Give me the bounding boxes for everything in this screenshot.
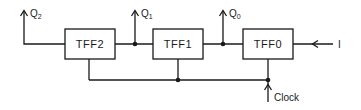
q1-label: Q1 [141,8,153,20]
q2-output: Q2 [21,8,66,44]
clock-label: Clock [274,92,300,103]
q2-label: Q2 [30,8,42,20]
tff2-label: TFF2 [76,38,104,50]
tff0-label: TFF0 [254,38,282,50]
input-label: I [338,39,341,50]
input-i: I [293,39,341,50]
tff2-block: TFF2 [65,29,115,59]
clock-bus: Clock [89,59,300,103]
tff1-block: TFF1 [153,29,203,59]
tff1-label: TFF1 [164,38,192,50]
q1-output: Q1 [115,8,153,46]
tff1-clock-junction-dot [176,78,181,83]
tff0-block: TFF0 [243,29,293,59]
tff-counter-diagram: Q2 TFF2 Q1 TFF1 Q0 TFF0 I [0,0,361,110]
tff0-clock-junction-dot [266,78,271,83]
q0-output: Q0 [203,8,243,46]
q0-label: Q0 [229,8,241,20]
